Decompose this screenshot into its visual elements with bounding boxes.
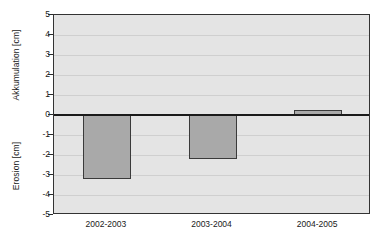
bar-2003-2004 (189, 115, 237, 159)
y-tick-label: 4 (28, 29, 50, 39)
y-tick-label: 0 (28, 109, 50, 119)
y-tick-label: -4 (28, 189, 50, 199)
y-axis-title-erosion: Erosion [cm] (10, 132, 22, 200)
bar-2002-2003 (83, 115, 131, 179)
y-tick-label: -3 (28, 169, 50, 179)
bar-chart: Akkumulation [cm] Erosion [cm] 543210-1-… (0, 0, 382, 242)
x-tick-label: 2003-2004 (172, 219, 252, 230)
y-axis-title-accumulation: Akkumulation [cm] (10, 21, 22, 109)
gridline (54, 55, 369, 56)
y-tick-label: -5 (28, 209, 50, 219)
y-tick-label: 2 (28, 69, 50, 79)
plot-area (53, 14, 370, 214)
y-axis-tick-labels: 543210-1-2-3-4-5 (24, 0, 50, 242)
gridline (54, 35, 369, 36)
gridline (54, 75, 369, 76)
y-tick-label: 1 (28, 89, 50, 99)
x-tick-label: 2004-2005 (277, 219, 357, 230)
y-tick-label: -2 (28, 149, 50, 159)
x-tick-label: 2002-2003 (66, 219, 146, 230)
y-tick-label: 5 (28, 9, 50, 19)
y-tick-mark (48, 214, 53, 215)
gridline (54, 95, 369, 96)
y-tick-label: -1 (28, 129, 50, 139)
y-tick-label: 3 (28, 49, 50, 59)
zero-axis-line (54, 114, 369, 116)
gridline (54, 195, 369, 196)
